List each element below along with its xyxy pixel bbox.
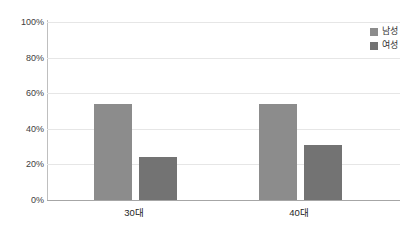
y-tick-100: 100%	[4, 17, 44, 27]
x-tick-40dae: 40대	[259, 207, 339, 219]
gridline-60	[47, 93, 400, 94]
gridline-100	[47, 22, 400, 23]
bar-40dae-female	[304, 145, 342, 200]
x-tick-30dae: 30대	[94, 207, 174, 219]
plot-area	[47, 22, 400, 200]
y-tick-80: 80%	[4, 53, 44, 63]
bar-30dae-female	[139, 157, 177, 200]
legend-item-male[interactable]: 남성	[370, 26, 398, 37]
y-tick-20: 20%	[4, 159, 44, 169]
y-tick-60: 60%	[4, 88, 44, 98]
y-axis-labels: 100% 80% 60% 40% 20% 0%	[0, 0, 44, 232]
legend-swatch-icon-female	[370, 42, 378, 50]
bar-chart: 100% 80% 60% 40% 20% 0% 30대 40대 남성 여성	[0, 0, 412, 232]
legend-item-female[interactable]: 여성	[370, 40, 398, 51]
y-tick-0: 0%	[4, 195, 44, 205]
legend-swatch-icon-male	[370, 28, 378, 36]
y-tick-40: 40%	[4, 124, 44, 134]
bar-40dae-male	[259, 104, 297, 200]
x-axis-line	[47, 200, 400, 201]
bar-30dae-male	[94, 104, 132, 200]
legend: 남성 여성	[370, 26, 398, 51]
legend-label-male: 남성	[382, 26, 398, 37]
gridline-80	[47, 58, 400, 59]
legend-label-female: 여성	[382, 40, 398, 51]
